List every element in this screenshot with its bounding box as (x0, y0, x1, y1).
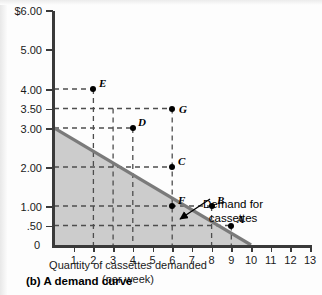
x-tick-7 (192, 245, 194, 252)
y-tick-label-5: 5.00 (21, 44, 42, 55)
y-tick-label-4: 4.00 (21, 84, 42, 95)
x-tick-label-13: 13 (304, 255, 316, 266)
data-point-F (169, 203, 175, 209)
y-tick-3-5: 3.50 (46, 109, 53, 111)
data-point-C (169, 164, 175, 170)
x-tick-13 (310, 245, 312, 252)
x-tick-label-9: 9 (228, 255, 234, 266)
demand-annotation-line1: Demand for (203, 198, 263, 212)
x-tick-label-12: 12 (284, 255, 296, 266)
data-point-label-D: D (138, 116, 146, 128)
y-tick-label-2: 2.00 (21, 162, 42, 173)
x-tick-12 (290, 245, 292, 252)
x-tick-8 (212, 245, 214, 252)
x-axis-title-line1: Quantity of cassettes demanded (49, 258, 207, 272)
scan-edge-top (0, 0, 322, 5)
x-tick-label-8: 8 (209, 255, 215, 266)
y-tick-5: 5.00 (46, 49, 53, 51)
y-tick-3: 3.00 (46, 128, 53, 130)
y-tick-6: $6.00 (46, 10, 53, 12)
data-point-D (130, 125, 136, 131)
y-tick-1: 1.00 (46, 206, 53, 208)
data-point-label-E: E (99, 77, 106, 89)
data-point-G (169, 106, 175, 112)
y-tick-0-5: .50 (46, 226, 53, 228)
figure-page: $6.00 5.00 4.00 3.50 3.00 2.00 1.00 .50 … (0, 0, 322, 295)
x-tick-label-11: 11 (265, 255, 276, 266)
x-tick-10 (251, 245, 253, 252)
y-tick-label-3: 3.00 (21, 123, 42, 134)
x-tick-5 (153, 245, 155, 252)
x-tick-9 (231, 245, 233, 252)
data-point-E (90, 86, 96, 92)
y-tick-label-6: $6.00 (14, 5, 42, 16)
plot-area: $6.00 5.00 4.00 3.50 3.00 2.00 1.00 .50 … (54, 11, 310, 245)
x-tick-6 (172, 245, 174, 252)
figure-caption: (b) A demand curve (26, 275, 133, 287)
x-tick-3 (113, 245, 115, 252)
data-point-label-C: C (178, 155, 185, 167)
x-tick-1 (74, 245, 76, 252)
data-point-label-F: F (178, 194, 185, 206)
y-tick-4: 4.00 (46, 89, 53, 91)
y-tick-label-0: 0 (34, 239, 40, 251)
demand-annotation-text: Demand for cassettes (203, 198, 263, 225)
y-tick-label-0-5: .50 (27, 221, 42, 232)
x-tick-2 (93, 245, 95, 252)
x-tick-11 (271, 245, 273, 252)
demand-annotation-line2: cassettes (203, 212, 263, 226)
y-tick-label-1: 1.00 (21, 201, 42, 212)
x-tick-4 (133, 245, 135, 252)
data-point-label-G: G (179, 103, 187, 115)
y-tick-label-3-5: 3.50 (21, 104, 42, 115)
y-tick-2: 2.00 (46, 167, 53, 169)
x-tick-label-10: 10 (245, 255, 257, 266)
consumer-area-shading (54, 11, 310, 245)
scan-edge-left (0, 0, 7, 295)
